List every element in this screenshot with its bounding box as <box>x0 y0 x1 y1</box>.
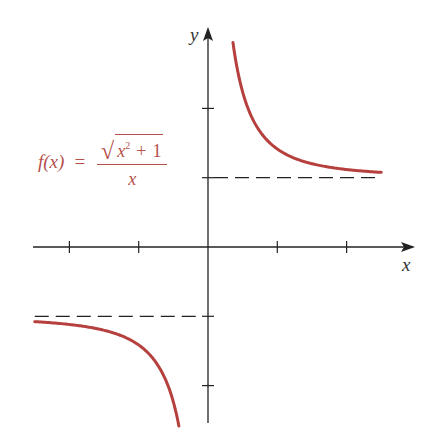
curve-right-branch <box>233 42 381 172</box>
curve-left-branch <box>35 322 179 426</box>
formula-denominator: x <box>128 165 136 190</box>
formula-radicand: x2+1 <box>115 134 163 161</box>
formula-fraction: √ x2+1 x <box>97 134 167 190</box>
y-axis-label: y <box>190 24 198 46</box>
sqrt-icon: √ <box>101 141 114 161</box>
function-formula: f(x) = √ x2+1 x <box>38 134 167 190</box>
radicand-constant: 1 <box>152 141 161 161</box>
formula-lhs: f(x) <box>38 151 64 173</box>
formula-numerator: √ x2+1 <box>97 134 167 164</box>
function-graph <box>0 0 441 445</box>
x-axis-label: x <box>402 254 410 276</box>
radicand-operator: + <box>136 141 146 161</box>
radicand-exponent: 2 <box>125 140 130 151</box>
formula-equals: = <box>74 151 85 173</box>
axes <box>33 29 413 423</box>
